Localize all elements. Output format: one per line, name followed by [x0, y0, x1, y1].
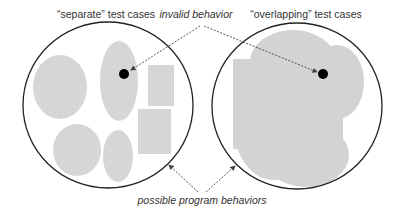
invalid-behavior-dot: [318, 69, 328, 79]
test-case-ellipse: [100, 41, 138, 121]
overlapping-test-cases-group: [212, 23, 382, 189]
test-cases-diagram: “separate” test cases invalid behavior “…: [0, 0, 401, 211]
test-case-ellipse: [33, 55, 87, 119]
test-case-rect: [138, 109, 171, 154]
invalid-behavior-dot: [119, 69, 129, 79]
test-case-ellipse: [53, 124, 101, 176]
invalid-behavior-label: invalid behavior: [160, 8, 233, 20]
test-case-rect: [148, 65, 174, 106]
possible-behaviors-label: possible program behaviors: [137, 194, 268, 206]
overlapping-label: “overlapping” test cases: [250, 8, 361, 20]
test-case-ellipse: [263, 123, 349, 187]
separate-label: “separate” test cases: [57, 8, 155, 20]
possible-arrow-left: [169, 165, 198, 192]
invalid-arrow-left: [131, 26, 200, 70]
test-case-ellipse: [103, 130, 133, 182]
possible-arrow-right: [206, 166, 235, 192]
